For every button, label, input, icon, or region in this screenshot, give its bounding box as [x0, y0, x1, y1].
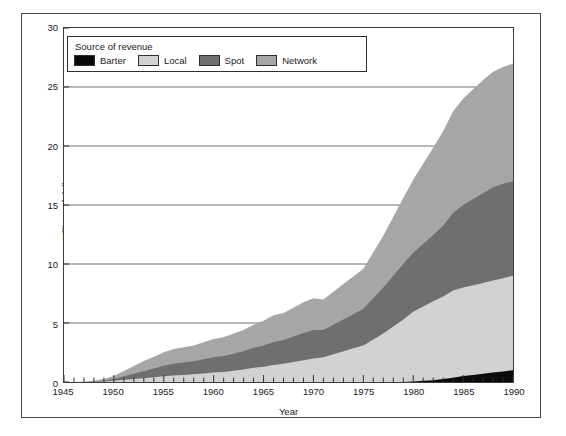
x-tick-1945: 1945	[52, 386, 73, 397]
plot-area	[63, 27, 514, 383]
y-tick-30: 30	[47, 22, 58, 33]
legend-swatch-spot	[199, 55, 220, 66]
x-tick-1985: 1985	[453, 386, 474, 397]
legend-label-spot: Spot	[225, 55, 245, 66]
x-tick-1965: 1965	[253, 386, 274, 397]
legend-items: Barter Local Spot Network	[74, 55, 360, 66]
x-tick-1970: 1970	[303, 386, 324, 397]
y-tick-10: 10	[47, 259, 58, 270]
x-tick-1955: 1955	[153, 386, 174, 397]
y-tick-15: 15	[47, 200, 58, 211]
y-tick-5: 5	[53, 318, 58, 329]
x-axis-title: Year	[63, 406, 514, 417]
legend-item-local[interactable]: Local	[138, 55, 187, 66]
legend-label-network: Network	[282, 55, 317, 66]
y-tick-20: 20	[47, 140, 58, 151]
x-axis-tick-labels: 1945 1950 1955 1960 1965 1970 1975 1980 …	[63, 386, 514, 400]
x-tick-1975: 1975	[353, 386, 374, 397]
y-axis-tick-labels: 0 5 10 15 20 25 30	[22, 27, 58, 383]
plot-wrapper: Billions of dollars 0 5 10 15 20 25 30 1…	[22, 14, 540, 417]
x-tick-1960: 1960	[203, 386, 224, 397]
legend-item-barter[interactable]: Barter	[74, 55, 126, 66]
legend-item-spot[interactable]: Spot	[199, 55, 245, 66]
legend-label-barter: Barter	[100, 55, 126, 66]
legend-swatch-network	[256, 55, 277, 66]
y-axis-inner-ticks	[64, 28, 69, 382]
legend-title: Source of revenue	[74, 41, 360, 52]
legend-swatch-local	[138, 55, 159, 66]
stacked-area-chart	[64, 28, 513, 382]
x-tick-1980: 1980	[403, 386, 424, 397]
legend-item-network[interactable]: Network	[256, 55, 317, 66]
legend-label-local: Local	[164, 55, 187, 66]
x-tick-1950: 1950	[103, 386, 124, 397]
area-series-group	[64, 63, 513, 382]
legend-swatch-barter	[74, 55, 95, 66]
figure-frame: Billions of dollars 0 5 10 15 20 25 30 1…	[21, 13, 541, 418]
x-tick-1990: 1990	[503, 386, 524, 397]
y-tick-25: 25	[47, 81, 58, 92]
legend: Source of revenue Barter Local Spot Netw…	[67, 36, 367, 72]
